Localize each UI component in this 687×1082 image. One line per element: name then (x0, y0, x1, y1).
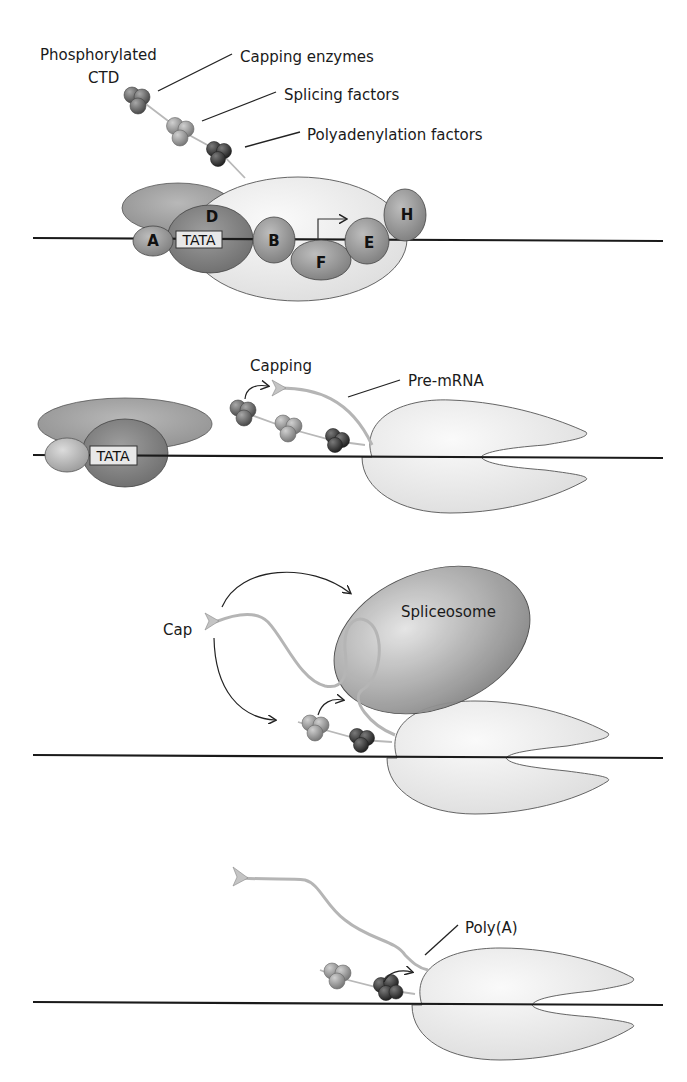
cap-icon (272, 380, 286, 396)
polyadenylation-leader-line (245, 132, 300, 147)
panel-polyadenylation: Poly(A) (33, 867, 663, 1060)
splicing-factor-cluster (324, 963, 351, 989)
ctd-label-line1: Phosphorylated (40, 46, 157, 64)
tf-label-d: D (206, 208, 218, 226)
splicing-factor-cluster (302, 715, 329, 741)
dna-strand (33, 1002, 663, 1005)
polyadenylation-factor-cluster (374, 975, 404, 1001)
capping-label: Capping (250, 357, 312, 375)
capping-enzyme-cluster (230, 400, 256, 426)
dna-strand (33, 755, 663, 758)
splicing-factor-cluster (167, 118, 195, 147)
panel-splicing: Spliceosome Cap (33, 539, 663, 814)
tata-label: TATA (96, 448, 130, 464)
splicing-factors-label: Splicing factors (284, 86, 400, 104)
spliceosome-label: Spliceosome (401, 603, 496, 621)
tf-label-a: A (147, 232, 159, 250)
polyadenylation-factor-cluster (350, 729, 375, 753)
tf-label-e: E (364, 234, 374, 252)
panel-capping: TATA Capping Pre-mRNA (33, 357, 663, 513)
tfiia (45, 438, 89, 472)
polyadenylation-factor-cluster (207, 142, 232, 167)
factor-recruitment-arrow-icon (318, 700, 343, 715)
polya-label: Poly(A) (465, 919, 518, 937)
tata-label: TATA (182, 232, 216, 248)
panel-initiation: Phosphorylated CTD Capping enzymes Splic… (33, 46, 663, 301)
capping-leader-line (158, 54, 232, 91)
pre-mrna-leader-line (348, 380, 400, 397)
cap-to-factors-arrow-icon (214, 638, 275, 720)
ctd-label-line2: CTD (88, 69, 119, 87)
cap-label: Cap (163, 621, 192, 639)
cap-icon (233, 867, 248, 886)
splicing-leader-line (202, 92, 276, 121)
polyadenylation-factors-label: Polyadenylation factors (307, 126, 483, 144)
splicing-factor-cluster (275, 415, 302, 442)
mrna-strand (243, 878, 428, 970)
capping-arrow-icon (245, 386, 268, 399)
polya-leader-line (425, 925, 458, 955)
pre-mrna-label: Pre-mRNA (408, 372, 485, 390)
cap-to-spliceosome-arrow-icon (222, 572, 350, 607)
capping-enzyme-cluster (124, 87, 150, 114)
tf-label-f: F (316, 254, 326, 272)
cap-icon (205, 613, 219, 630)
polyadenylation-factor-cluster (326, 429, 350, 453)
transcription-diagram: Phosphorylated CTD Capping enzymes Splic… (0, 0, 687, 1082)
tf-label-h: H (401, 206, 414, 224)
capping-enzymes-label: Capping enzymes (240, 48, 374, 66)
tf-label-b: B (268, 232, 279, 250)
